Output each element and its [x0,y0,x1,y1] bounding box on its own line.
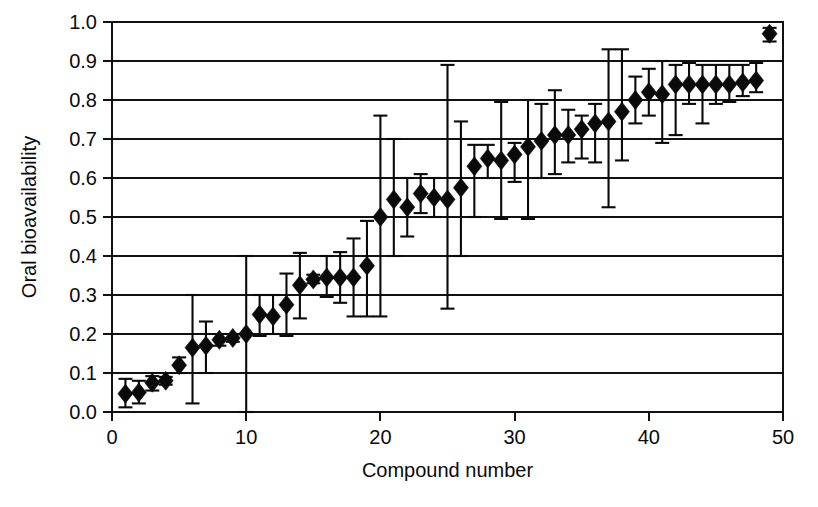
data-point-marker [534,131,549,150]
data-point-marker [198,336,213,355]
error-bar [467,145,481,217]
data-point-marker [118,384,133,403]
data-point-marker [279,295,294,314]
y-tick-label: 0.0 [69,401,97,423]
data-point-marker [252,305,267,324]
y-tick-label: 0.5 [69,206,97,228]
page-caption-fragment [0,495,818,507]
data-point-marker [655,85,670,104]
y-tick-label: 0.2 [69,323,97,345]
data-point-marker [561,126,576,145]
data-point-marker [185,338,200,357]
y-axis: 0.00.10.20.30.40.50.60.70.80.91.0 [69,11,112,423]
error-bar [441,65,455,309]
x-tick-label: 10 [235,426,257,448]
data-point-marker [131,383,146,402]
data-point-marker [547,126,562,145]
data-point-marker [266,307,281,326]
y-axis-label: Oral bioavailability [18,136,40,298]
y-tick-label: 1.0 [69,11,97,33]
data-point-marker [682,75,697,94]
data-point-marker [158,371,173,390]
y-tick-label: 0.8 [69,89,97,111]
data-point-marker [628,91,643,110]
x-tick-label: 0 [106,426,117,448]
data-point-marker [306,270,321,289]
data-point-marker [346,268,361,287]
data-point-marker [601,112,616,131]
data-point-marker [453,178,468,197]
chart-figure: 0.00.10.20.30.40.50.60.70.80.91.00102030… [0,0,818,507]
x-axis: 01020304050 [106,412,794,448]
data-point-marker [359,256,374,275]
x-tick-label: 50 [772,426,794,448]
x-tick-label: 20 [369,426,391,448]
data-point-marker [695,75,710,94]
data-point-marker [239,325,254,344]
data-point-marker [467,157,482,176]
y-tick-label: 0.4 [69,245,97,267]
data-point-marker [440,190,455,209]
error-bar [521,100,535,219]
data-point-marker [521,137,536,156]
data-point-marker [722,75,737,94]
y-tick-label: 0.3 [69,284,97,306]
data-point-marker [373,208,388,227]
data-point-marker [588,114,603,133]
x-axis-label: Compound number [362,459,534,481]
y-tick-label: 0.9 [69,50,97,72]
data-point-marker [735,73,750,92]
y-tick-label: 0.6 [69,167,97,189]
data-point-marker [319,268,334,287]
data-point-marker [427,188,442,207]
y-tick-label: 0.7 [69,128,97,150]
data-point-marker [292,276,307,295]
x-tick-label: 40 [638,426,660,448]
data-point-marker [386,190,401,209]
data-point-marker [749,71,764,90]
data-point-marker [413,184,428,203]
y-tick-label: 0.1 [69,362,97,384]
data-point-marker [641,83,656,102]
data-point-marker [400,198,415,217]
data-point-marker [574,120,589,139]
data-point-marker [708,75,723,94]
data-point-marker [494,151,509,170]
data-point-marker [480,149,495,168]
data-point-marker [614,102,629,121]
data-point-marker [668,75,683,94]
data-point-marker [172,356,187,375]
data-point-marker [225,328,240,347]
x-tick-label: 30 [503,426,525,448]
data-point-marker [507,145,522,164]
data-point-marker [333,268,348,287]
